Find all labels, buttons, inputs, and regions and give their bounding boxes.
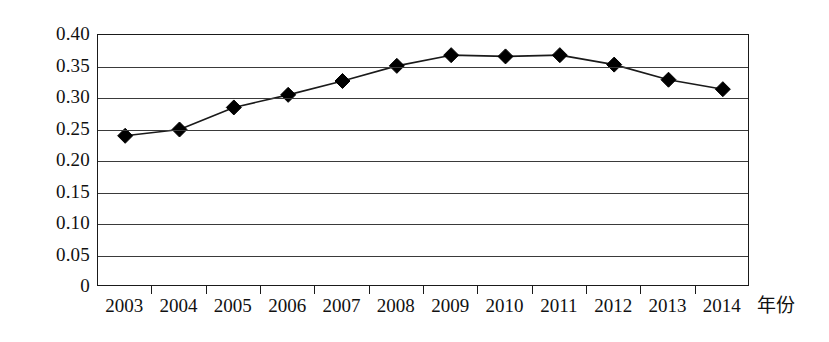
data-point-marker bbox=[444, 48, 459, 63]
y-tick-label: 0 bbox=[2, 276, 90, 295]
data-point-marker bbox=[715, 82, 730, 97]
y-tick-label: 0.40 bbox=[2, 24, 90, 43]
x-tick-mark bbox=[532, 286, 533, 294]
y-axis: 00.050.100.150.200.250.300.350.40 bbox=[0, 0, 90, 342]
x-tick-mark bbox=[477, 286, 478, 294]
x-axis-title: 年份 bbox=[757, 294, 795, 318]
x-axis: 2003200420052006200720082009201020112012… bbox=[97, 294, 749, 324]
x-tick-mark bbox=[206, 286, 207, 294]
data-point-marker bbox=[226, 100, 241, 115]
y-tick-label: 0.35 bbox=[2, 56, 90, 75]
x-tick-label: 2012 bbox=[594, 294, 632, 318]
data-point-marker bbox=[281, 87, 296, 102]
gridline bbox=[98, 161, 748, 162]
y-tick-label: 0.20 bbox=[2, 150, 90, 169]
x-tick-mark bbox=[423, 286, 424, 294]
x-tick-mark bbox=[369, 286, 370, 294]
x-tick-label: 2004 bbox=[160, 294, 198, 318]
data-point-marker bbox=[335, 73, 350, 88]
data-point-marker bbox=[498, 49, 513, 64]
y-tick-label: 0.25 bbox=[2, 119, 90, 138]
gridline bbox=[98, 67, 748, 68]
gridline bbox=[98, 130, 748, 131]
y-tick-label: 0.30 bbox=[2, 87, 90, 106]
x-tick-label: 2006 bbox=[268, 294, 306, 318]
x-axis-ticks bbox=[97, 286, 749, 294]
x-tick-label: 2009 bbox=[431, 294, 469, 318]
x-tick-label: 2008 bbox=[377, 294, 415, 318]
chart-page: 00.050.100.150.200.250.300.350.40 200320… bbox=[0, 0, 829, 342]
x-tick-mark bbox=[695, 286, 696, 294]
data-point-marker bbox=[661, 72, 676, 87]
x-tick-mark bbox=[314, 286, 315, 294]
x-tick-mark bbox=[260, 286, 261, 294]
x-tick-label: 2003 bbox=[105, 294, 143, 318]
x-tick-mark bbox=[640, 286, 641, 294]
x-tick-label: 2010 bbox=[486, 294, 524, 318]
data-point-marker bbox=[607, 57, 622, 72]
y-tick-label: 0.10 bbox=[2, 213, 90, 232]
data-point-marker bbox=[118, 128, 133, 143]
gridline bbox=[98, 98, 748, 99]
x-tick-mark bbox=[586, 286, 587, 294]
plot-area bbox=[97, 34, 749, 286]
gridline bbox=[98, 224, 748, 225]
x-tick-label: 2011 bbox=[540, 294, 577, 318]
gridline bbox=[98, 193, 748, 194]
x-tick-mark bbox=[151, 286, 152, 294]
x-tick-label: 2014 bbox=[703, 294, 741, 318]
x-tick-label: 2007 bbox=[323, 294, 361, 318]
y-tick-label: 0.05 bbox=[2, 245, 90, 264]
y-tick-label: 0.15 bbox=[2, 182, 90, 201]
data-point-marker bbox=[552, 48, 567, 63]
gridline bbox=[98, 256, 748, 257]
x-tick-label: 2013 bbox=[649, 294, 687, 318]
x-tick-label: 2005 bbox=[214, 294, 252, 318]
